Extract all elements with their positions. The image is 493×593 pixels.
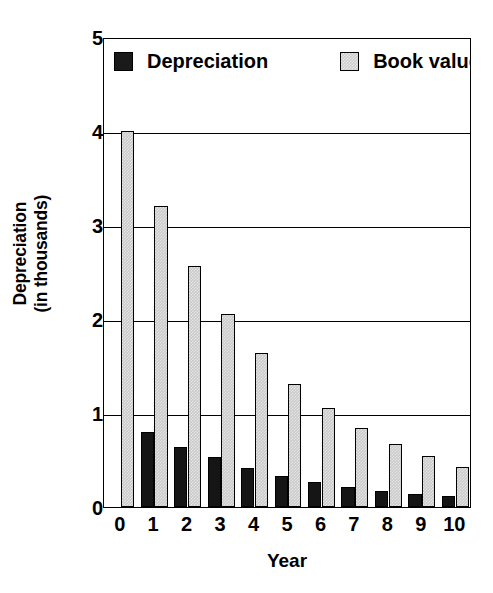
x-axis-title: Year — [103, 551, 471, 570]
y-axis-tick-2: 2 — [69, 310, 103, 330]
legend-label-book-value: Book value — [373, 51, 471, 71]
y-axis-tick-5: 5 — [69, 28, 103, 48]
bar-depreciation-year-4 — [241, 468, 254, 507]
bar-depreciation-year-5 — [275, 476, 288, 507]
x-axis-tick-0: 0 — [114, 514, 125, 534]
x-axis-tick-4: 4 — [248, 514, 259, 534]
legend-swatch-book-value-icon — [340, 52, 359, 71]
bar-book-value-year-1 — [154, 206, 167, 507]
bar-depreciation-year-7 — [341, 487, 354, 507]
x-axis-tick-7: 7 — [348, 514, 359, 534]
bar-depreciation-year-1 — [141, 432, 154, 507]
y-axis-tick-1: 1 — [69, 404, 103, 424]
bar-book-value-year-4 — [255, 353, 268, 507]
y-axis-tick-4: 4 — [69, 122, 103, 142]
legend-entry-depreciation: Depreciation — [114, 51, 268, 71]
bar-book-value-year-8 — [389, 444, 402, 507]
x-axis-tick-9: 9 — [415, 514, 426, 534]
x-axis-tick-5: 5 — [281, 514, 292, 534]
bar-book-value-year-3 — [221, 314, 234, 507]
bar-depreciation-year-9 — [408, 494, 421, 507]
gridline-4 — [104, 133, 470, 134]
bar-depreciation-year-3 — [208, 457, 221, 507]
x-axis-tick-2: 2 — [181, 514, 192, 534]
legend-swatch-depreciation-icon — [114, 52, 133, 71]
bar-depreciation-year-2 — [174, 447, 187, 507]
x-axis-tick-3: 3 — [215, 514, 226, 534]
y-axis-tick-0: 0 — [69, 498, 103, 518]
bar-depreciation-year-6 — [308, 482, 321, 507]
x-axis-tick-labels: 012345678910 — [103, 514, 471, 544]
bar-book-value-year-9 — [422, 456, 435, 507]
legend-entry-book-value: Book value — [340, 51, 471, 71]
y-axis-tick-3: 3 — [69, 216, 103, 236]
x-axis-tick-8: 8 — [382, 514, 393, 534]
legend-label-depreciation: Depreciation — [147, 51, 268, 71]
x-axis-tick-1: 1 — [148, 514, 159, 534]
y-axis-tick-labels: 012345 — [62, 0, 103, 593]
bar-book-value-year-6 — [322, 408, 335, 507]
bar-book-value-year-2 — [188, 266, 201, 507]
bar-book-value-year-10 — [456, 467, 469, 507]
bar-book-value-year-0 — [121, 131, 134, 507]
depreciation-bar-chart: Depreciation (in thousands) 012345 Depre… — [0, 0, 493, 593]
bar-depreciation-year-10 — [442, 496, 455, 507]
bar-depreciation-year-8 — [375, 491, 388, 507]
x-axis-tick-6: 6 — [315, 514, 326, 534]
chart-legend: Depreciation Book value — [114, 51, 471, 71]
plot-area: Depreciation Book value — [103, 38, 471, 508]
y-axis-title-line2: (in thousands) — [31, 195, 52, 313]
y-axis-title: Depreciation (in thousands) — [0, 0, 62, 508]
x-axis-tick-10: 10 — [443, 514, 465, 534]
bar-book-value-year-7 — [355, 428, 368, 507]
y-axis-title-line1: Depreciation — [10, 195, 31, 313]
bar-book-value-year-5 — [288, 384, 301, 507]
